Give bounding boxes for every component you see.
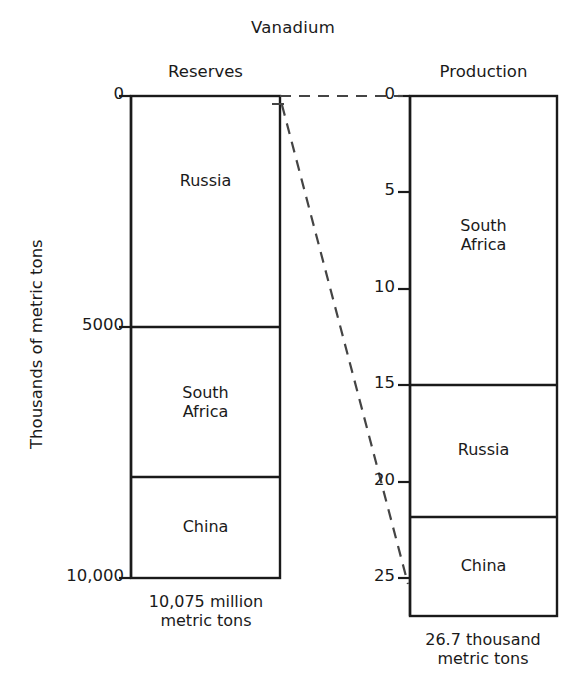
reserves-segment-label-china: China	[131, 518, 280, 537]
production-segment-label-russia: Russia	[410, 441, 557, 460]
production-tick-label-0: 0	[339, 84, 395, 103]
reserves-tick-label-10000: 10,000	[66, 566, 124, 585]
y-axis-title: Thousands of metric tons	[27, 239, 46, 449]
reserves-bar-outline	[131, 96, 280, 578]
reserves-tick-label-5000: 5000	[82, 315, 124, 334]
chart-graphics	[0, 0, 586, 693]
production-tick-label-25: 25	[339, 566, 395, 585]
production-tick-label-20: 20	[339, 470, 395, 489]
reserves-segment-label-south-africa: South Africa	[131, 384, 280, 422]
reserves-total-caption: 10,075 million metric tons	[106, 592, 306, 630]
production-bar-outline	[410, 96, 557, 616]
production-tick-label-5: 5	[339, 180, 395, 199]
vanadium-chart: Vanadium Reserves Production Thousands o…	[0, 0, 586, 693]
connector-dashed-diagonal	[282, 105, 408, 584]
production-tick-label-15: 15	[339, 373, 395, 392]
production-panel-header: Production	[410, 62, 557, 81]
reserves-segment-label-russia: Russia	[131, 172, 280, 191]
production-total-caption: 26.7 thousand metric tons	[383, 630, 583, 668]
production-tick-label-10: 10	[339, 277, 395, 296]
reserves-tick-label-0: 0	[114, 84, 125, 103]
production-segment-label-china: China	[410, 557, 557, 576]
reserves-panel-header: Reserves	[131, 62, 280, 81]
production-segment-label-south-africa: South Africa	[410, 217, 557, 255]
page-title: Vanadium	[0, 18, 586, 37]
